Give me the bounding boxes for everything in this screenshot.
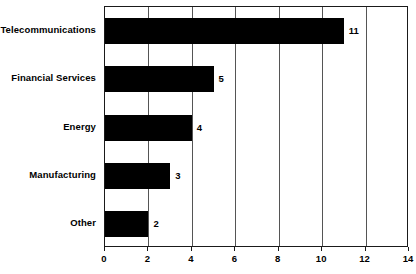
bar	[105, 18, 344, 44]
category-axis-labels: TelecommunicationsFinancial ServicesEner…	[0, 6, 100, 247]
category-label: Telecommunications	[0, 24, 96, 35]
x-tick-label: 6	[232, 253, 237, 264]
category-label: Other	[0, 217, 96, 228]
x-tick-14	[408, 247, 409, 251]
x-tick-label: 14	[403, 253, 414, 264]
bar	[105, 115, 192, 141]
bar	[105, 66, 214, 92]
bar-value-label: 2	[153, 218, 158, 229]
x-tick-8	[278, 247, 279, 251]
x-tick-12	[365, 247, 366, 251]
gridline-12	[366, 7, 367, 246]
x-tick-label: 2	[145, 253, 150, 264]
bar-value-label: 3	[175, 170, 180, 181]
x-tick-label: 10	[316, 253, 327, 264]
bar-value-label: 11	[349, 25, 359, 36]
category-label: Manufacturing	[0, 169, 96, 180]
x-axis: 02468101214	[104, 247, 408, 274]
bar-value-label: 5	[219, 73, 224, 84]
category-label: Energy	[0, 121, 96, 132]
bar-value-label: 4	[197, 122, 202, 133]
x-tick-label: 12	[359, 253, 370, 264]
category-label: Financial Services	[0, 72, 96, 83]
x-tick-2	[147, 247, 148, 251]
bar	[105, 163, 170, 189]
bar-chart: TelecommunicationsFinancial ServicesEner…	[0, 0, 416, 274]
x-tick-0	[104, 247, 105, 251]
bar	[105, 211, 148, 237]
plot-area: 115432	[104, 6, 408, 247]
x-tick-label: 8	[275, 253, 280, 264]
x-tick-10	[321, 247, 322, 251]
x-tick-6	[234, 247, 235, 251]
x-tick-label: 0	[101, 253, 106, 264]
x-tick-label: 4	[188, 253, 193, 264]
x-tick-4	[191, 247, 192, 251]
